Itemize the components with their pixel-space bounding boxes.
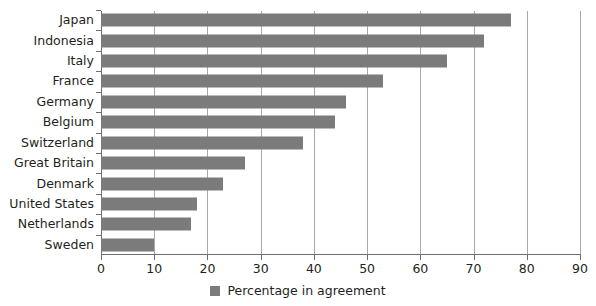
bar-row: Denmark <box>0 173 596 193</box>
y-axis-tick <box>96 153 101 154</box>
x-tick-mark <box>154 255 155 260</box>
bar <box>101 34 484 47</box>
x-tick-label: 20 <box>199 261 215 276</box>
bar-rows: JapanIndonesiaItalyFranceGermanyBelgiumS… <box>0 10 596 255</box>
category-label: Netherlands <box>18 217 94 231</box>
x-tick-mark <box>527 255 528 260</box>
y-axis-tick <box>96 112 101 113</box>
category-label: Indonesia <box>34 34 94 48</box>
y-axis-tick <box>96 10 101 11</box>
bar <box>101 55 447 68</box>
bar-row: United States <box>0 194 596 214</box>
bar-row: Japan <box>0 10 596 30</box>
legend-label: Percentage in agreement <box>227 283 385 298</box>
legend-swatch-icon <box>210 286 220 296</box>
y-axis-tick <box>96 71 101 72</box>
bar <box>101 218 191 231</box>
x-tick-label: 80 <box>519 261 535 276</box>
bar <box>101 157 245 170</box>
category-label: Belgium <box>43 115 94 129</box>
bar <box>101 136 303 149</box>
y-axis-tick <box>96 235 101 236</box>
bar <box>101 238 154 251</box>
category-label: Germany <box>37 95 94 109</box>
x-tick-mark <box>314 255 315 260</box>
y-axis-tick <box>96 214 101 215</box>
bar-row: Switzerland <box>0 133 596 153</box>
x-tick-mark <box>474 255 475 260</box>
bar-chart: JapanIndonesiaItalyFranceGermanyBelgiumS… <box>0 0 596 306</box>
bar <box>101 177 223 190</box>
bar <box>101 75 383 88</box>
category-label: Japan <box>59 13 94 27</box>
legend: Percentage in agreement <box>0 283 596 298</box>
bar-row: France <box>0 71 596 91</box>
x-tick-mark <box>261 255 262 260</box>
bar-row: Germany <box>0 92 596 112</box>
x-tick-label: 70 <box>466 261 482 276</box>
category-label: Italy <box>67 54 94 68</box>
bar <box>101 95 346 108</box>
x-tick-label: 0 <box>97 261 105 276</box>
x-tick-mark <box>367 255 368 260</box>
bar-row: Great Britain <box>0 153 596 173</box>
category-label: Denmark <box>37 177 94 191</box>
bar <box>101 14 511 27</box>
category-label: Switzerland <box>21 136 94 150</box>
x-tick-label: 40 <box>306 261 322 276</box>
bar-row: Italy <box>0 51 596 71</box>
bar <box>101 197 197 210</box>
category-label: Great Britain <box>14 156 94 170</box>
y-axis-tick <box>96 133 101 134</box>
category-label: France <box>52 74 94 88</box>
bar-row: Sweden <box>0 235 596 255</box>
y-axis-tick <box>96 51 101 52</box>
x-tick-mark <box>420 255 421 260</box>
bar-row: Indonesia <box>0 30 596 50</box>
category-label: United States <box>9 197 94 211</box>
bar-row: Netherlands <box>0 214 596 234</box>
bar-row: Belgium <box>0 112 596 132</box>
x-tick-label: 50 <box>359 261 375 276</box>
x-tick-label: 30 <box>253 261 269 276</box>
x-tick-mark <box>101 255 102 260</box>
y-axis-tick <box>96 30 101 31</box>
bar <box>101 116 335 129</box>
x-tick-mark <box>207 255 208 260</box>
y-axis-tick <box>96 173 101 174</box>
category-label: Sweden <box>45 238 94 252</box>
y-axis-tick <box>96 92 101 93</box>
x-tick-label: 10 <box>146 261 162 276</box>
x-tick-label: 60 <box>412 261 428 276</box>
y-axis-tick <box>96 194 101 195</box>
x-tick-mark <box>580 255 581 260</box>
x-tick-label: 90 <box>572 261 588 276</box>
